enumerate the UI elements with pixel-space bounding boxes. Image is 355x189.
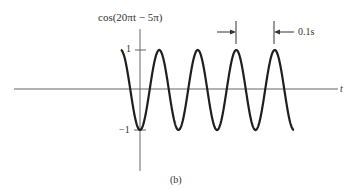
ytick-label-minus-1: −1: [119, 124, 130, 135]
cosine-curve: [121, 50, 294, 130]
arrow-right-head: [274, 30, 280, 35]
arrow-left-head: [230, 30, 236, 35]
t-axis-label: t: [340, 83, 343, 94]
ytick-label-1: 1: [126, 43, 131, 54]
figure-caption: (b): [170, 174, 182, 185]
period-annotation: [217, 21, 294, 44]
period-label: 0.1s: [298, 26, 314, 37]
y-axis-label: cos(20πt − 5π): [98, 11, 162, 23]
